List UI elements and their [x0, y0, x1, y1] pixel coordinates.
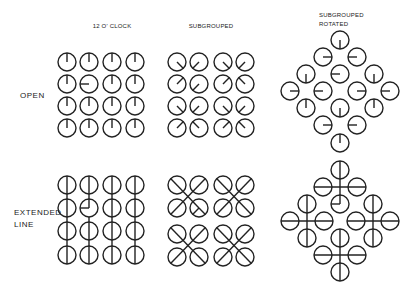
dial-hand — [193, 84, 199, 90]
dial-hand — [239, 78, 245, 84]
dial-hand — [239, 62, 245, 68]
panel-extended-twelve-oclock — [58, 176, 144, 264]
extended-line — [193, 208, 199, 214]
dial-hand — [223, 62, 229, 68]
panel-open-subgrouped — [168, 53, 254, 137]
dial-hand — [239, 106, 245, 112]
dial-hand — [223, 122, 229, 128]
panel-extended-subgrouped-rotated — [281, 161, 399, 281]
dial-hand — [239, 122, 245, 128]
panel-extended-subgrouped — [168, 176, 254, 266]
dial-hand — [223, 78, 229, 84]
dial-hand — [193, 62, 199, 68]
dial-hand — [193, 122, 199, 128]
dial-hand — [177, 78, 183, 84]
dial-hand — [223, 106, 229, 112]
dial-hand — [177, 62, 183, 68]
panel-open-subgrouped-rotated — [281, 31, 399, 152]
dial-diagram-canvas — [0, 0, 411, 292]
panel-open-twelve-oclock — [58, 53, 144, 137]
dial-hand — [177, 122, 183, 128]
dial-hand — [177, 106, 183, 112]
dial-hand — [193, 106, 199, 112]
extended-line — [199, 208, 205, 214]
